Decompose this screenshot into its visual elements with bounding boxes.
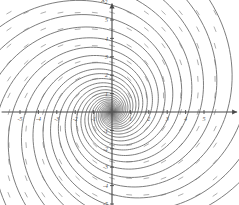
field-segment <box>127 28 131 30</box>
field-segment <box>26 126 27 131</box>
field-segment <box>41 45 45 47</box>
field-segment <box>42 193 45 197</box>
field-segment <box>58 12 63 13</box>
x-tick-label: 4 <box>184 116 187 122</box>
x-axis-arrow-icon <box>232 109 237 114</box>
y-axis-label: x2 <box>101 0 108 5</box>
field-segment <box>144 11 148 14</box>
field-segment <box>214 126 216 131</box>
y-tick-label: 5 <box>105 17 108 23</box>
x-tick-label: -5 <box>18 116 23 122</box>
field-segment <box>8 93 10 98</box>
field-segment <box>8 176 9 181</box>
field-segment <box>162 44 165 48</box>
y-tick-label: -4 <box>103 183 108 189</box>
field-segment <box>161 160 165 162</box>
field-segment <box>179 11 182 15</box>
field-segment <box>161 177 166 179</box>
trajectory-curve <box>65 0 232 187</box>
field-segment <box>41 61 45 64</box>
field-segment <box>198 93 199 98</box>
field-segment <box>197 27 199 31</box>
trajectory-curve <box>8 47 152 205</box>
field-segment <box>59 77 63 80</box>
x-tick-label: 2 <box>147 116 150 122</box>
field-segment <box>197 43 199 48</box>
y-tick-label: -3 <box>103 164 108 170</box>
field-segment <box>144 195 149 196</box>
field-segment <box>41 12 46 14</box>
field-segment <box>127 61 131 64</box>
field-segment <box>25 176 27 181</box>
field-segment <box>92 12 97 13</box>
trajectory-curve <box>71 0 217 177</box>
field-segment <box>25 193 27 197</box>
y-tick-label: -5 <box>103 201 108 205</box>
x-tick-label: 5 <box>203 116 206 122</box>
field-segment <box>144 28 148 31</box>
field-segment <box>7 28 11 31</box>
y-tick-label: 1 <box>105 91 108 97</box>
y-tick-label: -1 <box>103 128 108 134</box>
field-segment <box>214 43 215 48</box>
y-tick-label: -2 <box>103 146 108 152</box>
field-segment <box>214 143 217 147</box>
y-tick-label: 4 <box>105 36 108 42</box>
field-segment <box>59 176 62 180</box>
field-segment <box>25 77 28 81</box>
field-segment <box>75 62 80 64</box>
field-segment <box>7 44 11 47</box>
field-segment <box>162 27 165 31</box>
field-segment <box>58 61 62 63</box>
field-segment <box>127 44 131 47</box>
field-segment <box>197 60 198 65</box>
field-segment <box>26 159 27 164</box>
phase-portrait-canvas: x1x2-5-4-3-2-112345-5-4-3-2-112345 <box>0 0 239 205</box>
field-segment <box>75 45 80 46</box>
field-segment <box>162 143 166 146</box>
field-segment <box>25 93 27 97</box>
field-segment <box>8 192 10 197</box>
x-tick-label: -2 <box>73 116 78 122</box>
field-segment <box>180 60 182 65</box>
trajectory-curve <box>43 69 239 205</box>
field-segment <box>144 161 149 163</box>
field-segment <box>76 177 80 180</box>
field-segment <box>59 159 61 163</box>
x-tick-label: 3 <box>165 116 169 122</box>
field-segment <box>197 126 199 130</box>
field-segment <box>179 27 182 31</box>
field-segment <box>58 29 63 30</box>
field-segment <box>75 29 80 30</box>
y-tick-label: 2 <box>105 72 108 78</box>
field-segment <box>213 177 217 180</box>
field-segment <box>76 193 80 196</box>
field-segment <box>145 44 149 47</box>
field-segment <box>58 45 63 47</box>
field-segment <box>93 194 97 196</box>
field-segment <box>179 177 183 179</box>
field-segment <box>144 178 149 179</box>
field-segment <box>178 194 183 196</box>
field-segment <box>162 11 166 14</box>
field-segment <box>8 77 11 81</box>
phase-portrait-figure: x1x2-5-4-3-2-112345-5-4-3-2-112345 <box>0 0 239 205</box>
field-segment <box>59 193 62 197</box>
x-tick-label: 1 <box>129 116 132 122</box>
field-segment <box>213 193 217 196</box>
field-segment <box>42 159 44 164</box>
field-segment <box>93 160 97 163</box>
trajectory-group <box>0 0 239 205</box>
x-tick-label: -4 <box>36 116 41 122</box>
y-tick-label: 3 <box>104 54 108 60</box>
field-segment <box>41 28 46 30</box>
field-segment <box>214 27 216 32</box>
x-tick-label: -3 <box>54 116 59 122</box>
field-segment <box>7 11 11 13</box>
x-tick-label: -1 <box>91 116 96 122</box>
